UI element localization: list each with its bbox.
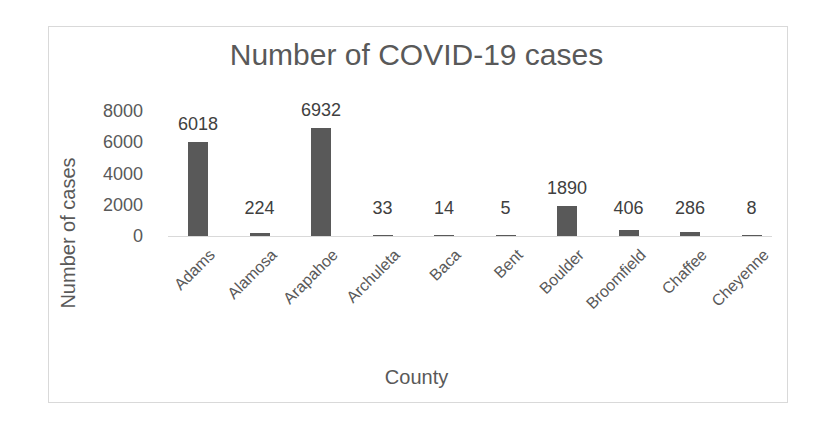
data-label: 6018 xyxy=(178,114,218,135)
x-axis-line xyxy=(168,236,772,237)
chart-title: Number of COVID-19 cases xyxy=(0,38,833,72)
bar-broomfield xyxy=(619,230,639,236)
bar-arapahoe xyxy=(311,128,331,236)
y-tick-label: 2000 xyxy=(103,194,143,215)
data-label: 6932 xyxy=(301,100,341,121)
data-label: 5 xyxy=(500,198,510,219)
data-label: 8 xyxy=(746,198,756,219)
data-label: 224 xyxy=(244,198,274,219)
bar-adams xyxy=(188,142,208,236)
y-tick-label: 8000 xyxy=(103,101,143,122)
y-axis-label: Number of cases xyxy=(57,157,80,308)
bar-alamosa xyxy=(250,233,270,237)
y-tick-label: 0 xyxy=(133,226,143,247)
bar-archuleta xyxy=(373,235,393,236)
data-label: 286 xyxy=(675,198,705,219)
x-axis-label: County xyxy=(0,366,833,389)
bar-chaffee xyxy=(680,232,700,236)
bar-bent xyxy=(496,235,516,236)
y-tick-label: 6000 xyxy=(103,132,143,153)
data-label: 406 xyxy=(613,198,643,219)
bar-boulder xyxy=(557,206,577,236)
bar-cheyenne xyxy=(742,235,762,236)
data-label: 1890 xyxy=(547,178,587,199)
data-label: 14 xyxy=(434,198,454,219)
bar-baca xyxy=(434,235,454,236)
data-label: 33 xyxy=(372,198,392,219)
y-tick-label: 4000 xyxy=(103,163,143,184)
